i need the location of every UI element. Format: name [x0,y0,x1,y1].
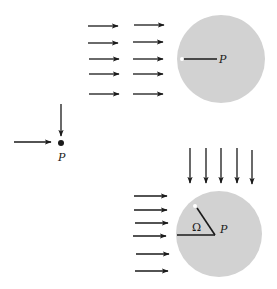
incident-rays-horizontal [133,196,169,271]
top-sphere-panel: P [88,15,265,103]
light-rays-diagram: P P Ω P [0,0,277,289]
bottom-sphere-panel: Ω P [133,148,262,277]
point-label-p: P [219,223,228,236]
incident-rays-horizontal [88,25,164,94]
surface-point-marker [193,204,197,208]
point-panel: P [14,104,66,164]
solid-angle-label-omega: Ω [192,221,201,234]
sphere [176,191,262,277]
point-label-p: P [57,151,66,164]
point-label-p: P [218,53,227,66]
surface-point-marker [180,57,184,61]
incident-rays-on-point [14,104,61,142]
incident-rays-vertical [190,148,252,184]
point-p-dot [58,140,64,146]
